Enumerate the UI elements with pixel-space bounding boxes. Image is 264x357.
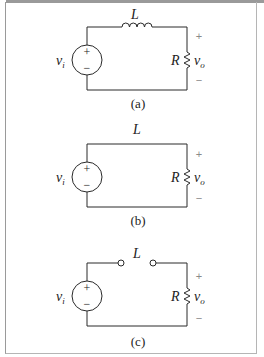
source-label: vi xyxy=(56,170,65,187)
output-minus: − xyxy=(196,74,202,86)
output-minus: − xyxy=(196,312,202,324)
resistor-label: R xyxy=(170,53,180,68)
source-plus: + xyxy=(84,45,91,59)
output-minus: − xyxy=(196,192,202,204)
panel-caption: (c) xyxy=(131,334,145,349)
inductor-label: L xyxy=(132,246,141,261)
output-plus: + xyxy=(196,30,202,42)
open-terminal-left xyxy=(118,260,124,266)
output-voltage-label: vo xyxy=(194,289,205,306)
panel-caption: (b) xyxy=(130,213,145,228)
source-label: vi xyxy=(56,289,65,306)
panel-caption: (a) xyxy=(131,96,145,111)
resistor-label: R xyxy=(170,170,180,185)
source-minus: − xyxy=(84,178,91,192)
wire-right-bottom xyxy=(87,70,187,90)
wire-top-right xyxy=(156,263,187,286)
source-plus: + xyxy=(84,281,91,295)
output-plus: + xyxy=(196,270,202,282)
inductor-coil xyxy=(122,23,152,27)
panel-c-labels: L + − vi R vo + − (c) xyxy=(56,246,205,349)
panel-b-labels: L + − vi R vo + − (b) xyxy=(56,122,205,228)
source-minus: − xyxy=(84,61,91,75)
resistor-icon xyxy=(184,50,190,70)
output-voltage-label: vo xyxy=(194,170,205,187)
wire-left-top xyxy=(87,263,118,281)
resistor-label: R xyxy=(170,289,180,304)
resistor-icon xyxy=(184,286,190,306)
source-minus: − xyxy=(84,297,91,311)
source-label: vi xyxy=(56,53,65,70)
output-plus: + xyxy=(196,148,202,160)
inductor-label: L xyxy=(130,7,139,22)
wire-left-top xyxy=(87,27,122,45)
open-terminal-right xyxy=(150,260,156,266)
output-voltage-label: vo xyxy=(194,53,205,70)
wire-right-bottom xyxy=(87,306,187,326)
circuit-figure: L + − vi R vo + − (a) L + − vi R vo + − … xyxy=(0,0,264,357)
panel-a-labels: L + − vi R vo + − (a) xyxy=(56,7,205,111)
wire-top-right xyxy=(152,27,187,50)
resistor-icon xyxy=(184,167,190,187)
wire-top-short xyxy=(87,144,187,167)
wire-right-bottom xyxy=(87,187,187,207)
source-plus: + xyxy=(84,162,91,176)
inductor-label: L xyxy=(132,122,141,137)
